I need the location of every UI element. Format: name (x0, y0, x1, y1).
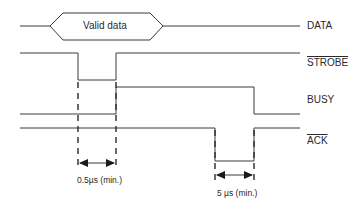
data-signal-label: DATA (307, 21, 332, 31)
busy-signal-trace (20, 87, 300, 114)
strobe-signal-label: STROBE (307, 58, 348, 68)
strobe-width-label: 0.5µs (min.) (77, 176, 122, 185)
timing-diagram (0, 0, 359, 212)
ack-signal-label: ACK (307, 136, 328, 146)
ack-width-arrow (216, 171, 253, 179)
strobe-width-arrow (79, 159, 115, 167)
busy-signal-label: BUSY (307, 95, 334, 105)
data-signal-trace (20, 13, 300, 40)
ack-width-label: 5 µs (min.) (217, 189, 257, 198)
valid-data-label: Valid data (83, 21, 127, 31)
ack-signal-trace (20, 128, 300, 161)
strobe-signal-trace (20, 53, 300, 80)
